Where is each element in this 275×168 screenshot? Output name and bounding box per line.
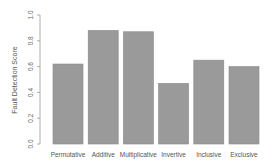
y-tick-label: 0.8 xyxy=(27,36,34,45)
x-label-permutative: Permutative xyxy=(51,151,86,158)
y-tick-label: 0.6 xyxy=(27,62,34,71)
y-tick-label: 0.2 xyxy=(27,113,34,122)
bar-exclusive xyxy=(229,67,259,144)
y-tick-label: 0.0 xyxy=(27,139,34,148)
bar-multiplicative xyxy=(123,32,153,144)
x-axis-labels: PermutativeAdditiveMultiplicativeInverti… xyxy=(51,151,258,159)
y-axis-title: Fault Detection Score xyxy=(11,46,18,113)
x-label-multiplicative: Multiplicative xyxy=(120,151,158,159)
x-label-additive: Additive xyxy=(92,151,116,158)
bar-chart: Fault Detection Score 0.00.20.40.60.81.0… xyxy=(0,0,275,168)
bar-permutative xyxy=(53,64,83,144)
x-label-inclusive: Inclusive xyxy=(196,151,222,158)
y-axis: 0.00.20.40.60.81.0 xyxy=(27,10,40,148)
bar-additive xyxy=(88,30,118,144)
bar-invertive xyxy=(159,83,189,144)
y-tick-label: 0.4 xyxy=(27,88,34,97)
bar-inclusive xyxy=(194,60,224,144)
bars-group xyxy=(53,30,259,144)
x-label-invertive: Invertive xyxy=(161,151,186,158)
x-label-exclusive: Exclusive xyxy=(230,151,258,158)
y-tick-label: 1.0 xyxy=(27,10,34,19)
